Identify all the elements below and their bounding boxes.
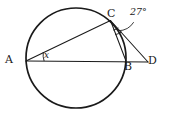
point-label-b: B: [124, 61, 132, 72]
segment-AC: [26, 21, 111, 62]
given-angle-label: 27°: [130, 7, 147, 17]
unknown-angle-label: x: [44, 51, 49, 60]
geometry-figure: A B C D x 27°: [0, 0, 171, 115]
point-label-a: A: [5, 54, 13, 65]
figure-canvas: [0, 0, 171, 115]
point-label-d: D: [148, 55, 157, 66]
point-label-c: C: [107, 8, 115, 19]
angle-label-leader: [119, 23, 134, 31]
